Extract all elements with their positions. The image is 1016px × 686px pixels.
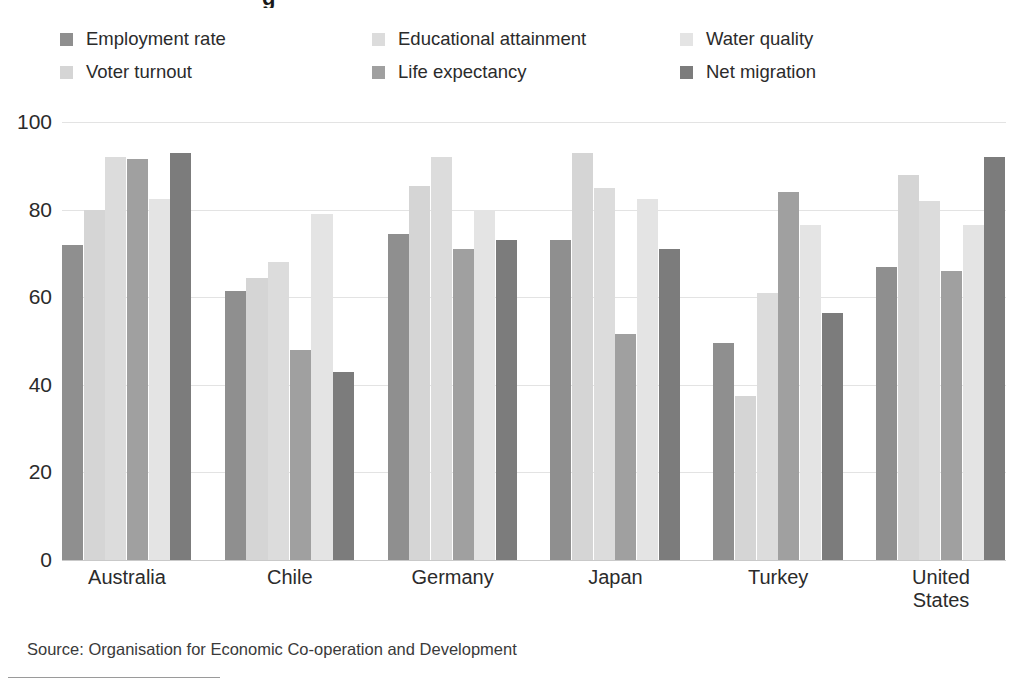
x-axis-category-label: Australia xyxy=(88,566,166,589)
bar[interactable] xyxy=(572,153,593,560)
bar[interactable] xyxy=(735,396,756,560)
bar[interactable] xyxy=(105,157,126,560)
bar[interactable] xyxy=(941,271,962,560)
chart-bars: AustraliaChileGermanyJapanTurkeyUnited S… xyxy=(0,0,1016,686)
x-axis-category-label: Chile xyxy=(267,566,313,589)
bar[interactable] xyxy=(919,201,940,560)
x-axis-category-label: United States xyxy=(912,566,970,612)
bar[interactable] xyxy=(170,153,191,560)
bar-group: United States xyxy=(876,122,1006,560)
bar[interactable] xyxy=(822,313,843,560)
bar[interactable] xyxy=(876,267,897,560)
x-axis-category-label: Turkey xyxy=(748,566,808,589)
bar-group: Germany xyxy=(388,122,518,560)
bar[interactable] xyxy=(290,350,311,560)
bar[interactable] xyxy=(388,234,409,560)
bar[interactable] xyxy=(637,199,658,560)
bar[interactable] xyxy=(311,214,332,560)
bar[interactable] xyxy=(800,225,821,560)
bar[interactable] xyxy=(594,188,615,560)
bar[interactable] xyxy=(757,293,778,560)
bar[interactable] xyxy=(496,240,517,560)
bar[interactable] xyxy=(453,249,474,560)
bar[interactable] xyxy=(984,157,1005,560)
bar[interactable] xyxy=(409,186,430,560)
bar[interactable] xyxy=(333,372,354,560)
bar[interactable] xyxy=(431,157,452,560)
bar-group: Chile xyxy=(225,122,355,560)
bar[interactable] xyxy=(963,225,984,560)
bar[interactable] xyxy=(713,343,734,560)
x-axis-category-label: Japan xyxy=(588,566,643,589)
bar[interactable] xyxy=(149,199,170,560)
bar-chart: 020406080100 AustraliaChileGermanyJapanT… xyxy=(0,0,1016,686)
bar[interactable] xyxy=(225,291,246,560)
bar[interactable] xyxy=(127,159,148,560)
bar-group: Turkey xyxy=(713,122,843,560)
source-note: Source: Organisation for Economic Co-ope… xyxy=(27,640,517,659)
bar[interactable] xyxy=(474,210,495,560)
bar[interactable] xyxy=(659,249,680,560)
bar[interactable] xyxy=(268,262,289,560)
bar[interactable] xyxy=(550,240,571,560)
bottom-divider xyxy=(8,677,220,678)
bar-group: Australia xyxy=(62,122,192,560)
bar-group: Japan xyxy=(550,122,680,560)
bar[interactable] xyxy=(62,245,83,560)
bar[interactable] xyxy=(615,334,636,560)
bar[interactable] xyxy=(84,210,105,560)
bar[interactable] xyxy=(778,192,799,560)
bar[interactable] xyxy=(898,175,919,560)
bar[interactable] xyxy=(246,278,267,561)
x-axis-category-label: Germany xyxy=(411,566,493,589)
